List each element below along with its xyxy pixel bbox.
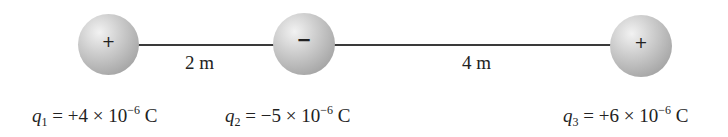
charge-exponent: −6 [658,103,671,117]
charge-value: = +4 × 10 [48,105,128,126]
distance-label-1-2: 2 m [185,52,214,74]
charge-unit: C [333,105,350,126]
charge-exponent: −6 [127,103,140,117]
charge-symbol: q [563,105,573,126]
charge-value: = −5 × 10 [241,105,321,126]
plus-icon: + [78,32,139,51]
minus-icon: − [273,29,335,50]
charge-symbol: q [32,105,42,126]
charge-label-q3: q3 = +6 × 10−6 C [563,103,688,130]
charge-label-q2: q2 = −5 × 10−6 C [225,103,350,130]
plus-icon: + [610,33,672,52]
charge-exponent: −6 [320,103,333,117]
connector-line-1-2 [138,44,274,46]
charge-unit: C [671,105,688,126]
distance-label-2-3: 4 m [462,52,491,74]
charge-sphere-q2: − [273,13,335,75]
charge-symbol: q [225,105,235,126]
charge-sphere-q3: + [610,15,672,77]
charge-unit: C [140,105,157,126]
charge-label-q1: q1 = +4 × 10−6 C [32,103,157,130]
charge-sphere-q1: + [78,14,139,75]
connector-line-2-3 [334,44,612,46]
charge-value: = +6 × 10 [579,105,659,126]
